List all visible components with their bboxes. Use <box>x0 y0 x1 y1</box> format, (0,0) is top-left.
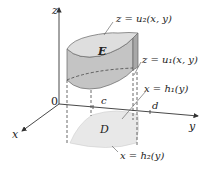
y-axis-label: y <box>189 121 195 132</box>
boundary-h1-label: x = h₁(y) <box>144 84 188 94</box>
bottom-surface-label: z = u₁(x, y) <box>142 55 198 65</box>
boundary-h2-label: x = h₂(y) <box>120 151 164 161</box>
top-surface-label: z = u₂(x, y) <box>116 14 172 24</box>
y-max-d-label: d <box>152 101 158 111</box>
z-axis-label: z <box>52 5 58 16</box>
solid-e-label: E <box>98 46 106 57</box>
y-min-c-label: c <box>101 96 107 106</box>
x-axis-label: x <box>12 129 18 140</box>
solid-e-right-face <box>133 33 138 70</box>
region-d-label: D <box>100 124 109 135</box>
origin-label: 0 <box>51 96 58 107</box>
x-axis <box>22 104 59 131</box>
triple-integral-region-diagram: z 0 x y E z = u₂(x, y) z = u₁(x, y) D x … <box>0 0 209 169</box>
